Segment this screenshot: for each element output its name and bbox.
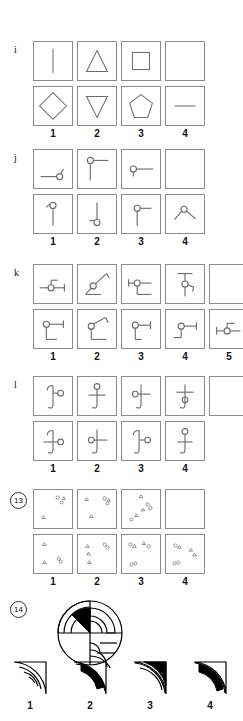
option-number: 3 [120,700,180,711]
cell-j-q2[interactable] [77,149,117,189]
cell-13-q4[interactable] [165,489,205,529]
cell-j-o3[interactable] [121,194,161,234]
option-number: 2 [77,576,117,587]
cell-j-q1[interactable] [33,149,73,189]
cell-k-o3[interactable] [121,309,161,349]
option-number: 1 [33,463,73,474]
section-label-13: 13 [10,492,27,509]
cell-13-o2[interactable] [77,534,117,574]
option-number: 4 [165,128,205,139]
cell-k-q2[interactable] [77,264,117,304]
section-label-j: j [14,153,17,163]
cell-i-o2[interactable] [77,86,117,126]
option-number: 3 [121,576,161,587]
section-label-i: i [14,45,17,55]
cell-k-q5[interactable] [209,264,243,304]
cell-k-o5[interactable] [209,309,243,349]
option-number: 2 [77,128,117,139]
option-number: 1 [33,128,73,139]
option-number: 4 [180,700,240,711]
question-row-k [33,264,243,304]
cell-k-o1[interactable] [33,309,73,349]
option-number: 3 [121,236,161,247]
cell-j-o2[interactable] [77,194,117,234]
cell-k-o4[interactable] [165,309,205,349]
cell-14-o2[interactable] [60,660,120,698]
question-row-j [33,149,205,189]
cell-j-o4[interactable] [165,194,205,234]
option-row-l [33,421,205,461]
section-label-k: k [14,268,19,278]
option-number: 5 [209,351,243,362]
cell-13-o4[interactable] [165,534,205,574]
question-row-l [33,376,205,416]
question-row-i [33,41,205,81]
section-label-14: 14 [10,601,27,618]
option-row-13 [33,534,205,574]
wheel-diagram[interactable] [55,598,125,668]
option-number: 1 [33,236,73,247]
cell-i-o1[interactable] [33,86,73,126]
question-row-13 [33,489,205,529]
cell-l-q5[interactable] [209,376,243,416]
option-number: 4 [165,576,205,587]
option-numbers-i: 1 2 3 4 [33,128,205,139]
option-number: 2 [60,700,120,711]
cell-l-q3[interactable] [121,376,161,416]
cell-14-o1[interactable] [0,660,60,698]
cell-i-o4[interactable] [165,86,205,126]
cell-13-o3[interactable] [121,534,161,574]
cell-l-q1[interactable] [33,376,73,416]
cell-l-q2[interactable] [77,376,117,416]
cell-l-q4[interactable] [165,376,205,416]
cell-14-o3[interactable] [120,660,180,698]
cell-i-o3[interactable] [121,86,161,126]
option-numbers-14: 1 2 3 4 [0,700,243,711]
cell-j-q4[interactable] [165,149,205,189]
option-row-14 [0,660,243,698]
option-number: 4 [165,351,205,362]
cell-13-q3[interactable] [121,489,161,529]
cell-i-q4[interactable] [165,41,205,81]
cell-i-q1[interactable] [33,41,73,81]
option-number: 1 [33,351,73,362]
option-number: 2 [77,236,117,247]
option-row-j [33,194,205,234]
option-numbers-13: 1 2 3 4 [33,576,205,587]
cell-13-o1[interactable] [33,534,73,574]
option-row-k [33,309,243,349]
cell-j-o1[interactable] [33,194,73,234]
section-label-l: l [14,380,17,390]
cell-14-o4[interactable] [180,660,240,698]
cell-i-q3[interactable] [121,41,161,81]
option-number: 3 [121,351,161,362]
option-numbers-j: 1 2 3 4 [33,236,205,247]
option-number: 4 [165,236,205,247]
option-number: 3 [121,463,161,474]
cell-k-q3[interactable] [121,264,161,304]
cell-l-o2[interactable] [77,421,117,461]
cell-i-q2[interactable] [77,41,117,81]
cell-l-o4[interactable] [165,421,205,461]
cell-13-q2[interactable] [77,489,117,529]
option-numbers-l: 1 2 3 4 [33,463,205,474]
cell-l-o1[interactable] [33,421,73,461]
cell-l-o3[interactable] [121,421,161,461]
cell-j-q3[interactable] [121,149,161,189]
option-number: 2 [77,351,117,362]
option-number: 2 [77,463,117,474]
cell-k-q1[interactable] [33,264,73,304]
option-numbers-k: 1 2 3 4 5 [33,351,243,362]
cell-13-q1[interactable] [33,489,73,529]
option-number: 1 [33,576,73,587]
cell-k-o2[interactable] [77,309,117,349]
option-number: 1 [0,700,60,711]
cell-k-q4[interactable] [165,264,205,304]
option-row-i [33,86,205,126]
option-number: 4 [165,463,205,474]
option-number: 3 [121,128,161,139]
